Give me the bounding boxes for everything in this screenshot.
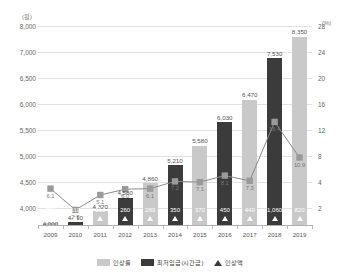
y2-axis-tick-label: 8	[318, 153, 336, 160]
increase-amount-label: 820	[295, 207, 305, 213]
x-axis-label: 2015	[193, 231, 207, 238]
legend-label: 인상액	[225, 258, 243, 267]
y2-axis-tick-label: 2	[318, 205, 336, 212]
increase-amount-label: 350	[170, 207, 180, 213]
rate-value-label: 7.1	[196, 186, 204, 192]
increase-amount-label: 450	[220, 207, 230, 213]
increase-amount-label: 230	[45, 207, 55, 213]
legend-swatch-icon	[97, 259, 110, 266]
bar-value-label: 7,530	[267, 50, 282, 57]
bar-value-label: 4,860	[142, 175, 157, 182]
increase-amount-label: 370	[195, 207, 205, 213]
triangle-marker-icon	[272, 216, 278, 221]
rate-value-label: 7.3	[246, 185, 254, 191]
increase-amount-label: 260	[120, 207, 130, 213]
x-axis-label: 2014	[168, 231, 182, 238]
triangle-marker-icon	[122, 216, 128, 221]
y2-axis-tick-label: 16	[318, 101, 336, 108]
rate-value-label: 6.1	[46, 193, 54, 199]
bar-value-label: 5,210	[167, 157, 182, 164]
triangle-marker-icon	[247, 216, 253, 221]
rate-value-label: 16.4	[269, 126, 280, 132]
x-axis-label: 2010	[68, 231, 82, 238]
legend-swatch-icon	[141, 259, 154, 266]
triangle-marker-icon	[47, 216, 53, 221]
legend-item[interactable]: 인상액	[214, 258, 243, 267]
bar-value-label: 4,580	[117, 189, 132, 196]
x-axis-tick	[187, 225, 188, 229]
y-axis-tick-label: 7,000	[6, 49, 36, 56]
legend-item[interactable]: 최저임금(시간급)	[141, 258, 203, 267]
increase-amount-label: 1,060	[267, 207, 282, 213]
y2-axis-tick-label: 24	[318, 49, 336, 56]
y-axis-tick-label: 4,500	[6, 179, 36, 186]
x-axis-label: 2009	[44, 231, 58, 238]
rate-value-label: 10.9	[294, 162, 305, 168]
x-axis-label: 2011	[94, 231, 107, 238]
x-axis-tick	[63, 225, 64, 229]
legend-label: 최저임금(시간급)	[157, 258, 203, 267]
x-axis-label: 2013	[143, 231, 157, 238]
y-axis-tick-label: 5,000	[6, 153, 36, 160]
y-axis-tick-label: 5,500	[6, 127, 36, 134]
y2-axis-tick-label: 20	[318, 75, 336, 82]
x-axis-tick	[138, 225, 139, 229]
left-axis-unit: (원)	[22, 12, 32, 21]
bar-value-label: 6,030	[217, 114, 232, 121]
x-axis-line	[38, 225, 312, 226]
legend-label: 인상률	[113, 258, 131, 267]
increase-amount-label: 440	[245, 207, 255, 213]
y2-axis-tick-label: 28	[318, 23, 336, 30]
x-axis-tick	[262, 225, 263, 229]
rate-value-label: 7.2	[171, 185, 179, 191]
bar-value-label: 8,350	[292, 28, 307, 35]
bar-value-label: 5,580	[192, 137, 207, 144]
x-axis-tick	[287, 225, 288, 229]
x-axis-tick	[237, 225, 238, 229]
x-axis-tick	[212, 225, 213, 229]
increase-amount-label: 280	[145, 207, 155, 213]
triangle-marker-icon	[172, 216, 178, 221]
minimum-wage-chart: (원) (%) 8,0007,0006,5006,0005,5005,0004,…	[0, 0, 340, 279]
x-axis-label: 2017	[243, 231, 257, 238]
x-axis-label: 2018	[268, 231, 282, 238]
triangle-marker-icon	[297, 216, 303, 221]
y2-axis-tick-label: 12	[318, 127, 336, 134]
y-axis-tick-label: 8,000	[6, 23, 36, 30]
x-axis-tick	[312, 225, 313, 229]
x-axis-label: 2012	[118, 231, 132, 238]
rate-value-label: 6.1	[146, 193, 154, 199]
x-axis-tick	[113, 225, 114, 229]
x-axis-label: 2019	[293, 231, 307, 238]
triangle-marker-icon	[222, 216, 228, 221]
legend-item[interactable]: 인상률	[97, 258, 131, 267]
triangle-marker-icon	[97, 216, 103, 221]
x-axis-tick	[38, 225, 39, 229]
x-axis-tick	[163, 225, 164, 229]
triangle-marker-icon	[72, 216, 78, 221]
y-axis-tick-label: 6,500	[6, 75, 36, 82]
y-axis-tick-label: 4,000	[6, 205, 36, 212]
increase-amount-label: 110	[71, 207, 81, 213]
triangle-marker-icon	[197, 216, 203, 221]
x-axis-tick	[88, 225, 89, 229]
chart-legend: 인상률최저임금(시간급)인상액	[0, 258, 340, 267]
triangle-marker-icon	[214, 260, 222, 266]
increase-amount-label: 210	[95, 207, 105, 213]
x-axis-label: 2016	[218, 231, 232, 238]
bar-value-label: 6,470	[242, 91, 257, 98]
rate-value-label: 8.1	[221, 180, 229, 186]
triangle-marker-icon	[147, 216, 153, 221]
y-axis-tick-label: 6,000	[6, 101, 36, 108]
y2-axis-tick-label: 4	[318, 179, 336, 186]
